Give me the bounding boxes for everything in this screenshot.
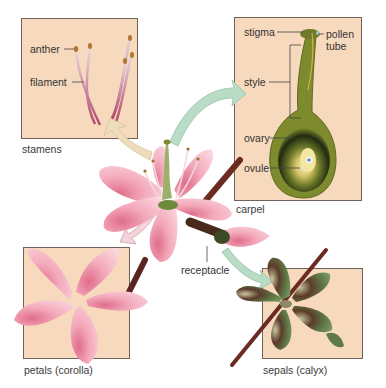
carpel-illustration bbox=[270, 29, 336, 198]
label-anther: anther bbox=[30, 43, 60, 55]
label-filament: filament bbox=[30, 76, 67, 88]
label-ovule: ovule bbox=[244, 162, 269, 174]
label-pollen-tube-line2: tube bbox=[326, 40, 346, 52]
flower-illustration bbox=[0, 0, 386, 388]
label-pollen-tube-line1: pollen bbox=[326, 28, 354, 40]
arrow-to-sepals bbox=[222, 248, 272, 290]
label-receptacle: receptacle bbox=[181, 264, 229, 276]
label-style: style bbox=[244, 76, 266, 88]
arrow-to-carpel bbox=[170, 80, 246, 146]
label-ovary: ovary bbox=[244, 132, 270, 144]
caption-petals: petals (corolla) bbox=[24, 364, 93, 376]
caption-carpel: carpel bbox=[236, 203, 265, 215]
label-stigma: stigma bbox=[244, 26, 275, 38]
stamens-illustration bbox=[74, 35, 134, 125]
center-flower bbox=[99, 140, 232, 263]
caption-stamens: stamens bbox=[22, 143, 62, 155]
petals-illustration bbox=[14, 248, 148, 364]
caption-sepals: sepals (calyx) bbox=[263, 364, 327, 376]
arrow-to-stamens bbox=[104, 118, 152, 160]
